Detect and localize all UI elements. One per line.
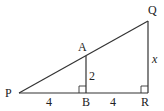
right-angle-marker-R	[141, 86, 148, 93]
segment-PQ	[19, 21, 148, 93]
triangle-diagram: P A B Q R 4 4 2 x	[0, 0, 164, 111]
label-P: P	[5, 86, 12, 100]
label-AB-length: 2	[89, 69, 95, 83]
label-B: B	[82, 95, 90, 109]
label-QR-length: x	[151, 52, 158, 66]
label-PB-length: 4	[46, 95, 52, 109]
right-angle-marker-B	[79, 86, 86, 93]
label-A: A	[78, 40, 87, 54]
label-BR-length: 4	[110, 95, 116, 109]
label-R: R	[141, 95, 149, 109]
label-Q: Q	[148, 3, 157, 17]
